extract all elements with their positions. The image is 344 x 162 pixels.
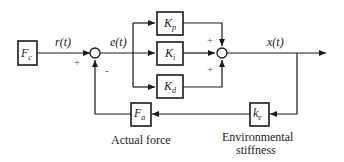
actual-force-caption: Actual force xyxy=(111,133,171,147)
env-stiffness-caption-line1: Environmental xyxy=(222,130,294,144)
ki-block: Ki xyxy=(157,42,183,65)
ke-block: ke xyxy=(250,103,269,126)
fc-block: Fc xyxy=(18,41,37,65)
kp-output-line xyxy=(183,23,222,46)
r-label: r(t) xyxy=(55,35,71,49)
summing-junction-2 xyxy=(217,48,227,58)
kd-output-line xyxy=(183,60,222,87)
x-label: x(t) xyxy=(266,35,284,49)
feedback-line-right xyxy=(270,53,297,114)
sum1-plus-sign: + xyxy=(74,56,80,68)
sum1-minus-sign: - xyxy=(105,64,109,76)
env-stiffness-caption-line2: stiffness xyxy=(236,143,276,157)
sum2-top-plus: + xyxy=(207,34,213,46)
summing-junction-1 xyxy=(90,48,100,58)
feedback-line-left xyxy=(95,60,131,114)
kp-block: Kp xyxy=(157,12,183,35)
fa-block: Fa xyxy=(131,103,151,126)
e-label: e(t) xyxy=(110,35,127,49)
kd-block: Kd xyxy=(157,75,183,98)
block-diagram: Fc r(t) + - e(t) Kp Ki Kd + + x(t) ke xyxy=(0,0,344,162)
sum2-bottom-plus: + xyxy=(207,63,213,75)
